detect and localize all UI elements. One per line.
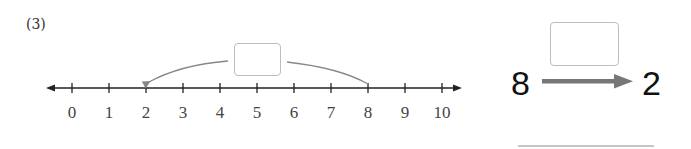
- tick-label: 10: [434, 103, 451, 122]
- operation-arrow: [542, 74, 633, 89]
- end-value: 2: [642, 66, 661, 100]
- jump-arc-left: [149, 61, 228, 82]
- tick-label: 3: [179, 103, 188, 122]
- tick-label: 6: [290, 103, 299, 122]
- tick-label: 7: [327, 103, 336, 122]
- tick-label: 8: [364, 103, 373, 122]
- tick-label: 1: [105, 103, 114, 122]
- arrow-head-icon: [614, 74, 633, 89]
- tick-label: 4: [216, 103, 225, 122]
- start-value: 8: [511, 66, 530, 100]
- tick-label: 9: [401, 103, 410, 122]
- tick-label: 0: [68, 103, 77, 122]
- jump-answer-box[interactable]: [234, 43, 281, 76]
- axis-left-arrow-icon: [46, 85, 55, 92]
- tick-label: 2: [142, 103, 151, 122]
- tick-label: 5: [253, 103, 262, 122]
- jump-arc-right: [287, 62, 368, 84]
- answer-line[interactable]: [518, 145, 654, 147]
- number-line-labels: 012345678910: [68, 103, 451, 122]
- operation-answer-box[interactable]: [550, 22, 619, 66]
- axis-right-arrow-icon: [453, 85, 462, 92]
